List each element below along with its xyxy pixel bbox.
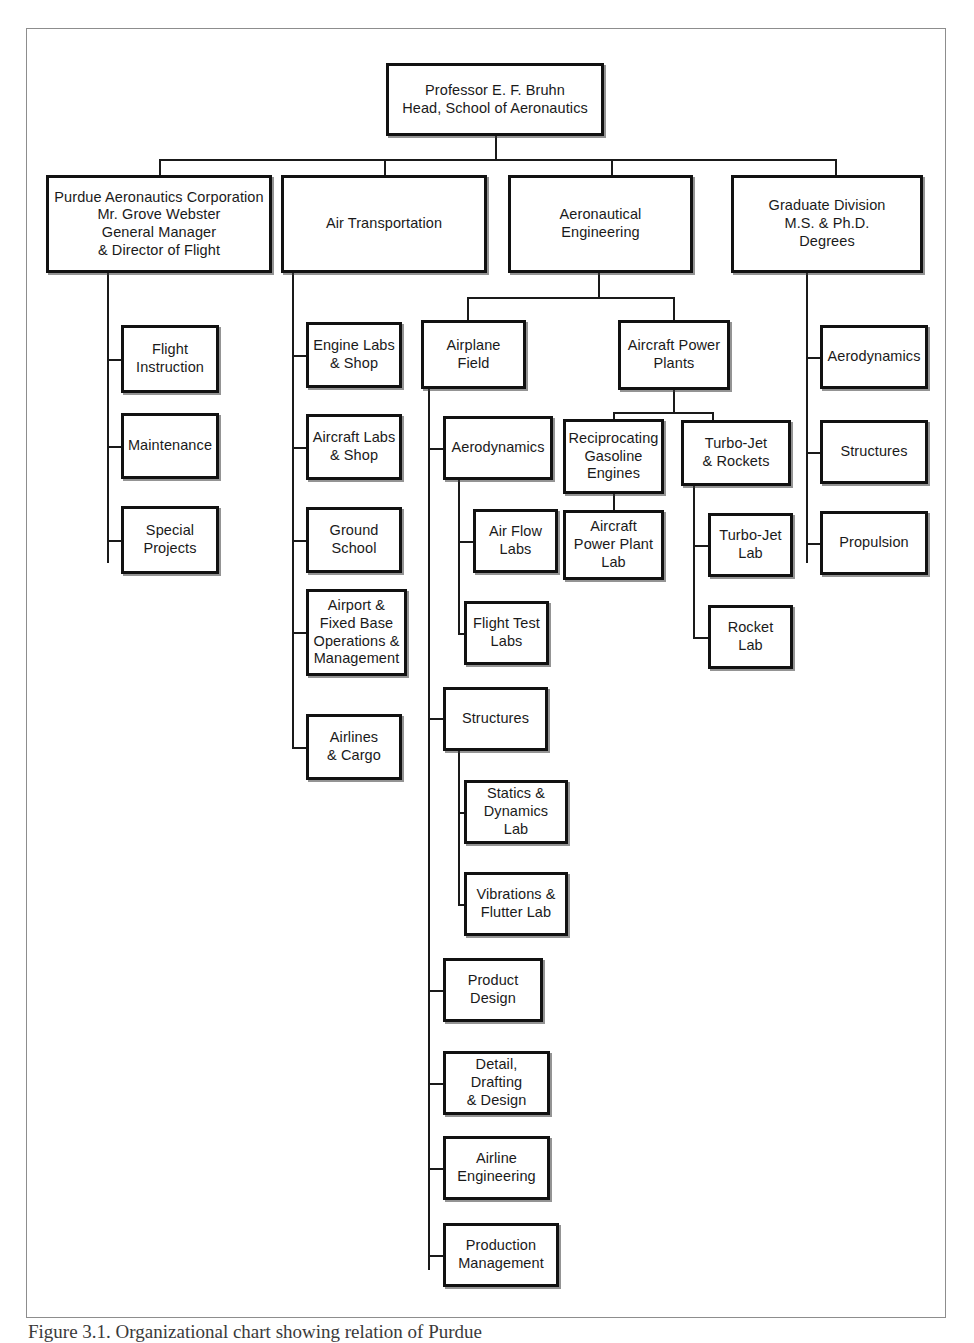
- node-gd-line1: Graduate Division: [769, 197, 886, 215]
- node-statics-dynamics-lab[interactable]: Statics & Dynamics Lab: [464, 780, 568, 844]
- node-airport-fixed-base[interactable]: Airport & Fixed Base Operations & Manage…: [306, 589, 407, 676]
- connector-af-production-management: [428, 1255, 444, 1257]
- node-turbojet-lab-line2: Lab: [719, 545, 781, 563]
- connector-aero-air-flow-labs: [458, 541, 474, 543]
- node-gd-line2: M.S. & Ph.D.: [769, 215, 886, 233]
- node-production-management-line1: Production: [458, 1237, 544, 1255]
- node-flight-instruction-line2: Instruction: [136, 359, 204, 377]
- connector-airplane-field-spine: [428, 389, 430, 1270]
- node-root[interactable]: Professor E. F. Bruhn Head, School of Ae…: [386, 63, 604, 136]
- node-airline-engineering[interactable]: Airline Engineering: [443, 1136, 550, 1200]
- node-app-line1: Aircraft Power: [628, 337, 720, 355]
- node-product-design[interactable]: Product Design: [443, 958, 543, 1022]
- connector-app-stem: [673, 390, 675, 413]
- node-maintenance-label: Maintenance: [128, 437, 212, 455]
- connector-af-product-design: [428, 990, 444, 992]
- node-purdue-line3: General Manager: [54, 224, 263, 242]
- node-airlines-cargo-line1: Airlines: [327, 729, 381, 747]
- connector-purdue-spine: [107, 273, 109, 563]
- node-air-flow-labs-line1: Air Flow: [489, 523, 542, 541]
- node-detail-drafting-design[interactable]: Detail, Drafting & Design: [443, 1051, 550, 1115]
- connector-af-structures: [428, 718, 444, 720]
- node-airlines-cargo[interactable]: Airlines & Cargo: [306, 714, 402, 780]
- node-production-management-line2: Management: [458, 1255, 544, 1273]
- node-air-transportation-label: Air Transportation: [326, 215, 442, 233]
- connector-structures-spine: [458, 750, 460, 906]
- connector-ae-bus: [467, 297, 674, 299]
- connector-app-bus: [613, 412, 713, 414]
- node-appl-line2: Power Plant: [574, 536, 653, 554]
- node-aircraft-power-plants[interactable]: Aircraft Power Plants: [618, 320, 730, 390]
- node-airport-line2: Fixed Base: [314, 615, 400, 633]
- node-airline-engineering-line1: Airline: [457, 1150, 536, 1168]
- node-statics-dynamics-line2: Dynamics Lab: [470, 803, 562, 838]
- node-purdue-line1: Purdue Aeronautics Corporation: [54, 189, 263, 207]
- node-structures-airplane-field[interactable]: Structures: [443, 687, 548, 751]
- node-root-line2: Head, School of Aeronautics: [402, 100, 588, 118]
- connector-to-aero-engineering: [611, 159, 613, 175]
- connector-root-bus: [159, 159, 835, 161]
- node-propulsion-graduate[interactable]: Propulsion: [820, 511, 928, 575]
- connector-air-transportation-spine: [292, 273, 294, 748]
- node-structures-gd-label: Structures: [840, 443, 907, 461]
- node-root-line1: Professor E. F. Bruhn: [402, 82, 588, 100]
- node-maintenance[interactable]: Maintenance: [121, 413, 219, 479]
- node-airline-engineering-line2: Engineering: [457, 1168, 536, 1186]
- node-rocket-lab[interactable]: Rocket Lab: [708, 605, 793, 669]
- node-aircraft-power-plant-lab[interactable]: Aircraft Power Plant Lab: [563, 510, 664, 580]
- node-recip-line2: Gasoline: [569, 448, 659, 466]
- node-detail-drafting-line1: Detail, Drafting: [449, 1056, 544, 1091]
- connector-af-airline-engineering: [428, 1168, 444, 1170]
- node-recip-line3: Engines: [569, 465, 659, 483]
- node-airplane-field[interactable]: Airplane Field: [421, 320, 526, 389]
- node-aerodynamics-gd-label: Aerodynamics: [827, 348, 920, 366]
- node-purdue-line2: Mr. Grove Webster: [54, 206, 263, 224]
- node-aeronautical-engineering[interactable]: Aeronautical Engineering: [508, 175, 693, 273]
- connector-ae-to-airplane-field: [467, 297, 469, 320]
- node-airplane-field-line1: Airplane: [447, 337, 501, 355]
- connector-reciprocating-to-lab: [613, 494, 615, 511]
- node-flight-test-labs-line1: Flight Test: [473, 615, 540, 633]
- node-ground-school-line2: School: [330, 540, 379, 558]
- node-turbo-jet-lab[interactable]: Turbo-Jet Lab: [708, 513, 793, 577]
- node-ground-school-line1: Ground: [330, 522, 379, 540]
- node-special-projects[interactable]: Special Projects: [121, 506, 219, 574]
- node-graduate-division[interactable]: Graduate Division M.S. & Ph.D. Degrees: [731, 175, 923, 273]
- node-vibrations-flutter-lab[interactable]: Vibrations & Flutter Lab: [464, 872, 568, 936]
- node-aircraft-labs-shop[interactable]: Aircraft Labs & Shop: [306, 414, 402, 480]
- node-flight-test-labs-line2: Labs: [473, 633, 540, 651]
- node-airport-line1: Airport &: [314, 597, 400, 615]
- connector-to-purdue-corp: [159, 159, 161, 175]
- connector-turbojet-spine: [693, 486, 695, 638]
- node-air-flow-labs[interactable]: Air Flow Labs: [473, 509, 558, 573]
- node-gd-line3: Degrees: [769, 233, 886, 251]
- node-structures-graduate[interactable]: Structures: [820, 420, 928, 484]
- node-ground-school[interactable]: Ground School: [306, 507, 402, 573]
- connector-rocket-lab: [693, 637, 709, 639]
- node-turbojet-rockets-line2: & Rockets: [703, 453, 770, 471]
- connector-root-stem: [495, 136, 497, 160]
- connector-to-air-transportation: [384, 159, 386, 175]
- node-flight-instruction-line1: Flight: [136, 341, 204, 359]
- node-turbojet-rockets-line1: Turbo-Jet: [703, 435, 770, 453]
- node-production-management[interactable]: Production Management: [443, 1223, 559, 1287]
- node-appl-line3: Lab: [574, 554, 653, 572]
- node-aerodynamics-graduate[interactable]: Aerodynamics: [820, 325, 928, 389]
- node-ae-line2: Engineering: [560, 224, 642, 242]
- node-turbo-jet-rockets[interactable]: Turbo-Jet & Rockets: [681, 420, 791, 486]
- node-engine-labs-shop[interactable]: Engine Labs & Shop: [306, 322, 402, 388]
- node-flight-test-labs[interactable]: Flight Test Labs: [464, 601, 549, 665]
- node-reciprocating-gasoline-engines[interactable]: Reciprocating Gasoline Engines: [563, 419, 664, 494]
- node-purdue-aeronautics-corporation[interactable]: Purdue Aeronautics Corporation Mr. Grove…: [46, 175, 272, 273]
- node-engine-labs-line2: & Shop: [313, 355, 395, 373]
- node-app-line2: Plants: [628, 355, 720, 373]
- node-recip-line1: Reciprocating: [569, 430, 659, 448]
- node-air-transportation[interactable]: Air Transportation: [281, 175, 487, 273]
- connector-graduate-spine: [806, 273, 808, 563]
- node-vibrations-flutter-line2: Flutter Lab: [476, 904, 555, 922]
- connector-af-detail-drafting: [428, 1083, 444, 1085]
- figure-caption: Figure 3.1. Organizational chart showing…: [28, 1321, 928, 1343]
- node-flight-instruction[interactable]: Flight Instruction: [121, 325, 219, 393]
- node-aerodynamics-airplane-field[interactable]: Aerodynamics: [443, 416, 553, 480]
- node-aircraft-labs-line2: & Shop: [313, 447, 396, 465]
